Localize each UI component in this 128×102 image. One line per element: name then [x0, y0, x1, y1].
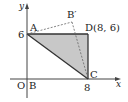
point-b-label: B — [29, 80, 36, 91]
y-tick-label-6: 6 — [18, 29, 24, 40]
coordinate-diagram: y x A B′ D(8, 6) 6 C O B 8 — [0, 0, 128, 102]
point-d-label: D(8, 6) — [85, 22, 120, 33]
y-axis-arrow-icon — [25, 3, 29, 9]
point-a-label: A — [29, 22, 38, 33]
origin-label: O — [17, 80, 25, 91]
x-tick-label-8: 8 — [84, 82, 90, 93]
x-axis-label: x — [116, 79, 121, 89]
point-b-prime-label: B′ — [67, 9, 77, 20]
point-c-label: C — [90, 69, 98, 80]
y-axis-label: y — [18, 1, 25, 11]
